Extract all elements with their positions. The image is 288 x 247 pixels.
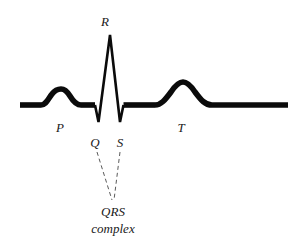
p-wave-label: P — [55, 120, 64, 135]
ecg-diagram: R P Q S T QRS complex — [0, 0, 288, 247]
diagram-background — [0, 0, 288, 247]
q-point-label: Q — [90, 135, 100, 150]
qrs-caption-line-2: complex — [91, 221, 135, 236]
qrs-caption-line-1: QRS — [101, 204, 125, 219]
t-wave-label: T — [177, 120, 185, 135]
s-point-label: S — [117, 135, 124, 150]
ecg-waveform-canvas: R P Q S T QRS complex — [0, 0, 288, 247]
r-peak-label: R — [100, 14, 109, 29]
